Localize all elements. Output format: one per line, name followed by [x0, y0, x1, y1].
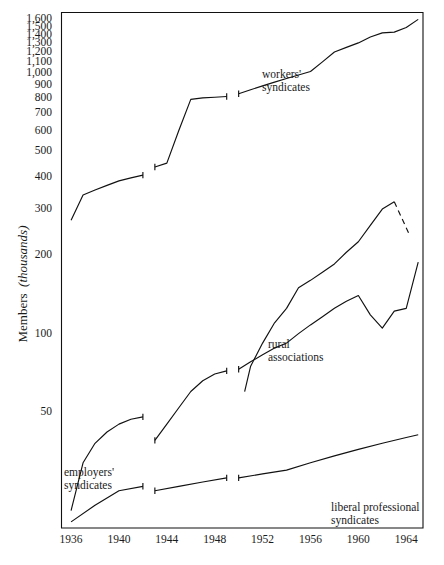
series-label-line1: liberal professional	[331, 501, 419, 513]
x-tick-label: 1956	[299, 534, 322, 546]
x-tick-label: 1948	[203, 534, 226, 546]
series-label-rural-associations: rural associations	[268, 338, 324, 364]
series-line-workers-syndicates	[71, 175, 143, 220]
series-line-employers-syndicates	[155, 371, 227, 440]
series-label-line2: syndicates	[262, 81, 310, 93]
series-line-employers-syndicates	[239, 262, 419, 369]
series-label-line2: syndicates	[331, 514, 379, 526]
series-label-line2: syndicates	[64, 479, 112, 491]
x-tick-label: 1944	[155, 534, 178, 546]
series-label-workers-syndicates: workers' syndicates	[262, 68, 310, 94]
series-label-line1: workers'	[262, 68, 301, 80]
x-tick-label: 1952	[251, 534, 274, 546]
log-line-chart: 1,6001,5001,4001,3001,2001,1001,00090080…	[0, 0, 444, 565]
x-tick-label: 1960	[347, 534, 370, 546]
series-line-dashed-rural-associations	[394, 202, 408, 233]
x-tick-label: 1940	[107, 534, 130, 546]
series-line-employers-syndicates	[71, 417, 143, 511]
series-line-liberal-professional-syndicates	[239, 435, 419, 478]
series-label-line1: rural	[268, 338, 290, 350]
series-line-liberal-professional-syndicates	[155, 478, 227, 491]
series-line-workers-syndicates	[155, 97, 227, 167]
series-label-line1: employers'	[64, 466, 114, 478]
series-label-liberal-professional-syndicates: liberal professional syndicates	[331, 501, 419, 527]
x-tick-label: 1936	[60, 534, 83, 546]
series-label-employers-syndicates: employers' syndicates	[64, 466, 114, 492]
x-tick-label: 1964	[395, 534, 418, 546]
plot-frame	[62, 13, 424, 529]
series-label-line2: associations	[268, 351, 324, 363]
